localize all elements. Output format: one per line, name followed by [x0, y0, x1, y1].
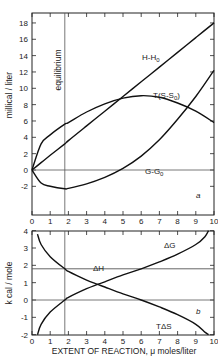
t-delta-s-label: TΔS: [156, 322, 172, 331]
panel-a-letter: a: [196, 191, 201, 200]
y-tick-label: -2: [21, 182, 29, 191]
x-tick-label: 4: [103, 217, 108, 226]
y-tick-label: 0: [24, 166, 29, 175]
y-tick-label: 2: [24, 261, 29, 270]
panel-a-x-ticks: 012345678910: [30, 13, 218, 226]
x-tick-label: 9: [194, 217, 199, 226]
y-tick-label: 14: [19, 52, 28, 61]
panel-a-frame: [32, 13, 214, 215]
panel-b-y-ticks: 43210-1-2: [21, 227, 214, 340]
thermodynamics-chart: 181614121086420-2 012345678910 equilibri…: [0, 0, 218, 358]
y-tick-label: 2: [24, 150, 29, 159]
y-tick-label: 0: [24, 296, 29, 305]
x-tick-label: 8: [175, 337, 180, 346]
y-tick-label: 3: [24, 244, 29, 253]
x-tick-label: 7: [157, 337, 162, 346]
y-tick-label: 4: [24, 227, 29, 236]
y-tick-label: 4: [24, 133, 29, 142]
y-tick-label: 12: [19, 68, 28, 77]
y-tick-label: 18: [19, 19, 28, 28]
y-tick-label: 10: [19, 84, 28, 93]
x-tick-label: 8: [175, 217, 180, 226]
curve-t-delta-s: [38, 234, 209, 335]
y-tick-label: -1: [21, 313, 29, 322]
y-tick-label: 6: [24, 117, 29, 126]
x-tick-label: 2: [66, 337, 71, 346]
x-tick-label: 1: [48, 217, 53, 226]
y-tick-label: 8: [24, 101, 29, 110]
x-tick-label: 10: [210, 337, 218, 346]
x-tick-label: 7: [157, 217, 162, 226]
y-tick-label: 1: [24, 279, 29, 288]
delta-g-label: ΔG: [164, 241, 176, 250]
y-tick-label: 16: [19, 35, 28, 44]
g-g0-label: G-G0: [145, 167, 164, 177]
panel-b: 43210-1-2 012345678910 k cal / mole ΔH Δ…: [4, 227, 218, 346]
x-tick-label: 5: [121, 337, 126, 346]
x-tick-label: 9: [194, 337, 199, 346]
panel-b-curves: [32, 231, 214, 335]
x-tick-label: 5: [121, 217, 126, 226]
curve-h-h0: [32, 23, 214, 170]
x-tick-label: 6: [139, 217, 144, 226]
panel-a: 181614121086420-2 012345678910 equilibri…: [4, 13, 218, 226]
x-tick-label: 4: [103, 337, 108, 346]
x-tick-label: 1: [48, 337, 53, 346]
panel-a-curves: [32, 23, 214, 189]
x-tick-label: 2: [66, 217, 71, 226]
delta-h-label: ΔH: [93, 264, 104, 273]
x-tick-label: 0: [30, 337, 35, 346]
x-tick-label: 6: [139, 337, 144, 346]
panel-a-y-axis-label: millical / liter: [4, 72, 14, 118]
x-tick-label: 0: [30, 217, 35, 226]
x-tick-label: 3: [84, 337, 89, 346]
x-axis-label: EXTENT OF REACTION, μ moles/liter: [52, 346, 197, 356]
curve-t-s-s0: [32, 96, 214, 170]
t-s-s0-label: T(S-S0): [153, 91, 180, 101]
x-tick-label: 10: [210, 217, 218, 226]
x-tick-label: 3: [84, 217, 89, 226]
h-h0-label: H-H0: [142, 53, 160, 63]
y-tick-label: -2: [21, 331, 29, 340]
panel-b-letter: b: [196, 307, 201, 316]
panel-b-y-axis-label: k cal / mole: [4, 261, 14, 304]
panel-a-equilibrium-label: equilibrium: [53, 49, 63, 90]
curve-delta-g: [38, 231, 209, 335]
